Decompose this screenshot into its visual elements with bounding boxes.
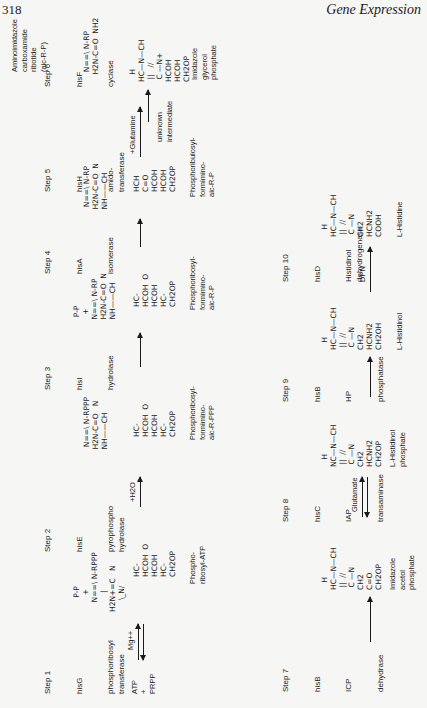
- step-code: ICP: [344, 655, 355, 692]
- compound-pr-amp-ppp: Phosphoribosyl- formimino- aic-R-PPP: [188, 386, 217, 440]
- step-4-label: Step 4 hisA isomerase: [22, 237, 138, 274]
- prbl-formimino-ring: N==\ N-RP H2N-C=O N NH——CH: [82, 163, 109, 212]
- step4-arrow: [140, 219, 141, 247]
- step-number: Step 1: [43, 640, 54, 694]
- step-enzyme: phosphoribosyl transferase: [106, 640, 127, 694]
- pr-amp-ring: N==\ N-RPPP H2N-C=O N NH——CH: [82, 397, 109, 452]
- step5-arrow: [140, 107, 141, 157]
- pr-formimino-ring: P-P + N==\ N-RP H2N-C=O N NH——CH: [72, 273, 117, 322]
- compound-histidinol-phosphate: L-Histidinol phosphate: [388, 430, 407, 467]
- step-code: HP: [344, 356, 355, 402]
- step-enzyme: dehydrase: [376, 655, 387, 692]
- pr-formimino-sugar: HC- HCOH O HCOH HC- CH2OP: [132, 274, 177, 307]
- compound-unknown-intermediate: unknown intermediate: [155, 101, 174, 142]
- reagent-glutamate: Glutamate: [350, 477, 359, 512]
- step-enzyme: cyclase: [106, 60, 117, 87]
- step-gene: hisC: [313, 474, 324, 522]
- step-gene: hisB: [313, 356, 324, 402]
- compound-phosphoribosyl-atp: Phospho- ribosyl-ATP: [188, 546, 207, 584]
- step-7-label: Step 7 hisB ICP dehydrase: [260, 655, 407, 692]
- histidinol-p-structure: H NC—N—CH || // C —N CH2 HCNH2 CH2OP: [320, 425, 383, 467]
- cofactor-mg: Mg++: [126, 631, 135, 650]
- histidine-pathway-figure: Step 1 hisG phosphoribosyl transferase S…: [10, 12, 420, 702]
- compound-aicar: Aminoimidazole carboxamide ribotide (aic…: [10, 19, 48, 72]
- step1-reverse-arrow: [143, 624, 144, 660]
- histidine-structure: H HC—N—CH || // C —N CH2 HCNH2 COOH: [320, 195, 383, 237]
- step1-forward-arrow: [138, 624, 139, 660]
- step-enzyme: amido- transferase: [106, 152, 127, 192]
- step9-arrow: [370, 357, 371, 397]
- pr-amp-sugar: HC- HCOH O HCOH HC- CH2OP: [132, 404, 177, 437]
- step3-arrow: [140, 333, 141, 367]
- step-9-label: Step 9 hisB HP phosphatase: [260, 356, 407, 402]
- step-8-label: Step 8 hisC IAP transaminase: [260, 474, 407, 522]
- step-number: Step 7: [281, 655, 292, 692]
- step10-arrow: [370, 247, 371, 292]
- igp-structure: H HC—N—CH || // C —N+ HCOH HCOH CH2OP: [128, 40, 191, 82]
- compound-prbl-formimino: Phosphoribulosyl- formimino- aic-R-P: [188, 137, 217, 197]
- step-gene: hisE: [75, 506, 86, 552]
- compound-histidine: L-Histidine: [395, 202, 405, 237]
- step-gene: hisB: [313, 655, 324, 692]
- step-number: Step 3: [43, 355, 54, 390]
- step7-arrow: [370, 597, 371, 642]
- step-enzyme: transaminase: [376, 474, 387, 522]
- step-enzyme: pyrophospho hydrolase: [106, 506, 127, 552]
- step-enzyme: phosphatase: [376, 356, 387, 402]
- phosphoribosyl-atp-sugar: HC- HCOH O HCOH HC- CH2OP: [132, 544, 177, 577]
- reagent-dpn: DPN: [358, 266, 367, 282]
- step2-arrow: [140, 477, 141, 507]
- step-number: Step 4: [43, 237, 54, 274]
- step-number: Step 9: [281, 356, 292, 402]
- histidinol-structure: H HC—N—CH || // C —N CH2 HCNH2 CH2OH: [320, 308, 383, 350]
- step8-forward-arrow: [362, 477, 363, 517]
- step-number: Step 8: [281, 474, 292, 522]
- step8-reverse-arrow: [367, 477, 368, 517]
- step-enzyme: isomerase: [106, 237, 117, 274]
- prbl-formimino-chain: HCH C=O HCOH HCOH CH2OP: [132, 166, 177, 192]
- step-3-label: Step 3 hisI hydrolase: [22, 355, 138, 390]
- reactants-atp-prpp: ATP + PRPP: [130, 674, 157, 694]
- reagent-glutamine: +Glutamine: [128, 115, 137, 154]
- step-number: Step 2: [43, 506, 54, 552]
- phosphoribosyl-atp-ring: P-P + N==\ N-RPPP | H2N+=C N \_N/: [72, 552, 126, 612]
- reagent-water: +H2O: [128, 482, 137, 502]
- step-gene: hisG: [75, 640, 86, 694]
- compound-iap: Imidazole acetol phosphate: [388, 555, 417, 590]
- step-number: Step 10: [281, 227, 292, 282]
- aicar-structure: N==\ N-RP H2N-C=O NH2: [82, 18, 100, 77]
- step-enzyme: hydrolase: [106, 355, 117, 390]
- step-number: Step 5: [43, 152, 54, 192]
- step-2-label: Step 2 hisE pyrophospho hydrolase: [22, 506, 148, 552]
- compound-histidinol: L-Histidinol: [395, 313, 405, 350]
- compound-pr-formimino: Phosphoribosyl- formimino- aic-R-P: [188, 256, 217, 310]
- compound-igp: Imidazole glycerol phosphate: [190, 45, 219, 80]
- step6-arrow: [148, 90, 149, 122]
- step-gene: hisI: [75, 355, 86, 390]
- iap-structure: H HC—N—CH || // C —N CH2 C=O CH2OP: [320, 548, 383, 590]
- step-gene: hisA: [75, 237, 86, 274]
